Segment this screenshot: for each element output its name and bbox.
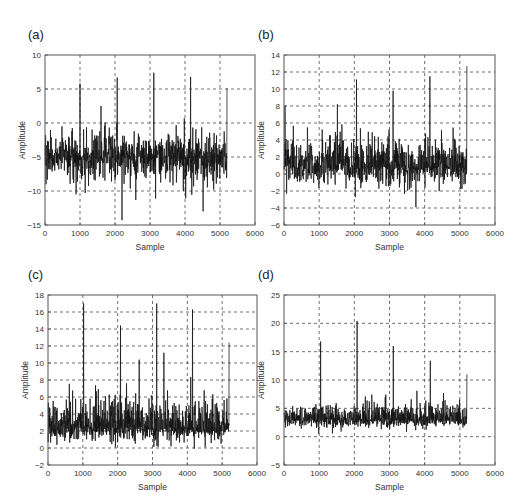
y-tick-label: 20: [271, 319, 280, 328]
y-tick-label: 15: [271, 348, 280, 357]
y-tick-label: 5: [276, 404, 281, 413]
x-tick-label: 5000: [451, 469, 469, 478]
y-axis: −50510152025: [271, 291, 287, 470]
y-tick-label: 25: [271, 291, 280, 300]
panel-d: (d) 0100020003000400050006000−5051015202…: [0, 0, 525, 495]
x-axis: 0100020003000400050006000: [282, 462, 505, 478]
x-axis-title: Sample: [375, 482, 404, 492]
chart-d: 0100020003000400050006000−50510152025Sam…: [0, 0, 525, 495]
y-axis-title: Amplitude: [256, 361, 266, 399]
signal-line: [284, 321, 467, 434]
y-tick-label: −5: [271, 461, 281, 470]
x-tick-label: 6000: [486, 469, 504, 478]
y-tick-label: 0: [276, 433, 281, 442]
y-tick-label: 10: [271, 376, 280, 385]
x-tick-label: 3000: [381, 469, 399, 478]
x-tick-label: 0: [282, 469, 287, 478]
x-tick-label: 1000: [310, 469, 328, 478]
grid-lines: [284, 295, 495, 465]
x-tick-label: 2000: [345, 469, 363, 478]
x-tick-label: 4000: [416, 469, 434, 478]
